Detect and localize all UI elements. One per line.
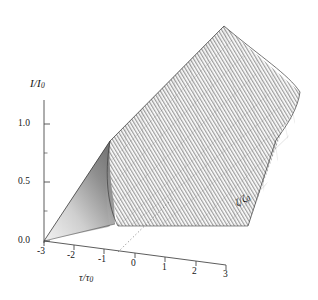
x-tick-label-4: 0 [131,258,136,268]
x-tick-label-5: 1 [162,262,167,272]
x-tick-label-3: -1 [98,254,106,264]
x-tick-label-6: 2 [192,266,197,276]
x-tick-label-1: -3 [37,246,45,256]
x-tick-label-2: -2 [67,250,75,260]
x-axis-title: τ/τ0 [79,272,94,284]
y-tick-label-3: 0.0 [18,235,30,245]
y-axis-ticks [44,124,50,241]
y-axis-title-subscript: 0 [41,81,45,90]
x-axis-title-subscript: 0 [90,275,94,284]
x-axis-title-text: τ/τ [79,272,90,283]
y-axis-title-text: I/I [30,77,41,89]
y-axis-title: I/I0 [30,77,45,90]
figure-3d-surface-plot: I/I0 τ/τ0 ζ/ζ0 1.0 0.5 0.0 -3 -2 -1 0 1 … [0,0,318,300]
plot-canvas [0,0,318,300]
x-tick-label-7: 3 [223,269,228,279]
surface-near-flank [44,141,115,241]
y-tick-label-1: 1.0 [18,118,30,128]
surface-mesh-body [109,26,300,226]
y-tick-label-2: 0.5 [18,176,30,186]
